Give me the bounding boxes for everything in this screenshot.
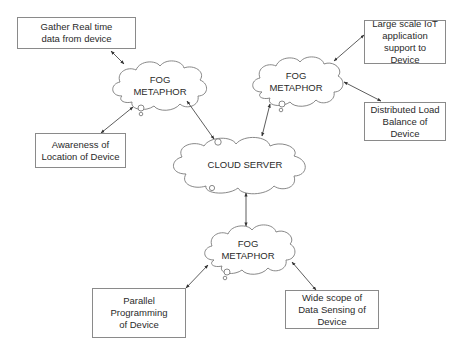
cloud-server-bottom-bubble [209,185,214,190]
fog-cloud-bottom-bubble [224,269,230,275]
box-label: Parallel Programming of Device [106,295,172,331]
arrow-fog-top-left-to-cloud-server [187,101,214,139]
fog-label-line1: FOG [150,74,171,86]
box-label: Wide scope of Data Sensing of Device [291,292,373,328]
cloud-server-text: CLOUD SERVER [208,159,283,171]
box-label: Gather Real time data from device [35,21,119,45]
fog-label-line1: FOG [286,70,307,82]
box-parallel-programming: Parallel Programming of Device [92,288,186,338]
arrow-distributed-load-to-fog-top-right [344,82,381,101]
cloud-server-top-bubble [215,139,221,145]
box-label: Distributed Load Balance of Device [370,104,440,140]
box-wide-scope-data-sensing: Wide scope of Data Sensing of Device [285,290,379,329]
fog-label-line2: METAPHOR [269,82,322,94]
fog-label-top-left: FOG METAPHOR [128,72,192,100]
arrow-awareness-to-fog-top-left [101,107,133,133]
arrow-parallel-to-fog-bottom [186,265,208,288]
arrow-gather-to-fog-top-left [111,51,124,64]
arrow-fog-top-right-to-cloud-server [262,104,270,136]
fog-cloud-top-right-bubble [279,101,285,107]
fog-label-line2: METAPHOR [221,250,274,262]
fog-computing-diagram: FOG METAPHOR FOG METAPHOR CLOUD SERVER F… [0,0,457,345]
fog-label-top-right: FOG METAPHOR [264,68,328,96]
fog-cloud-top-left-bubble [138,105,144,111]
arrow-wide-scope-to-fog-bottom [292,262,316,290]
arrow-large-scale-iot-to-fog-top-right [334,35,364,61]
fog-label-bottom: FOG METAPHOR [216,236,280,264]
fog-label-line2: METAPHOR [133,86,186,98]
box-label: Awareness of Location of Device [40,139,121,163]
box-label: Large scale IoT application support to D… [369,18,441,66]
box-awareness-of-location: Awareness of Location of Device [35,133,126,168]
box-distributed-load-balance: Distributed Load Balance of Device [364,102,446,141]
cloud-server-label: CLOUD SERVER [195,158,295,172]
box-large-scale-iot: Large scale IoT application support to D… [364,20,446,64]
fog-label-line1: FOG [238,238,259,250]
box-gather-real-time-data: Gather Real time data from device [17,17,136,49]
